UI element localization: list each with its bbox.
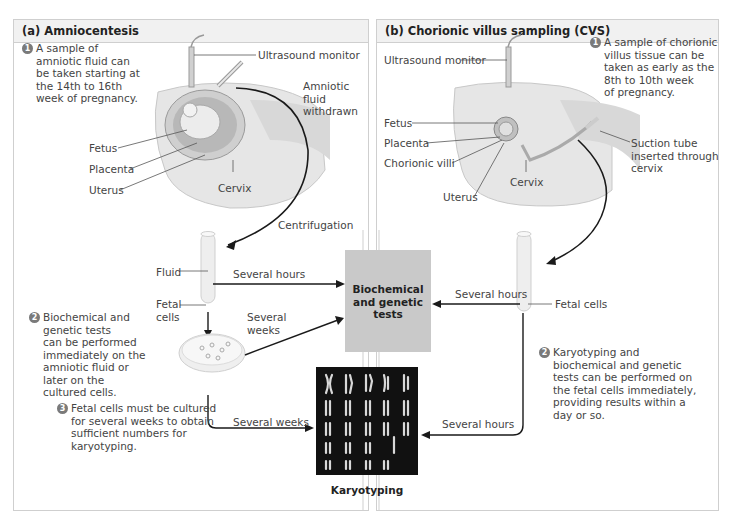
- step-number-badge: 1: [590, 37, 601, 48]
- label-ultrasound-monitor: Ultrasound monitor: [258, 49, 360, 62]
- step-text: A sample of chorionic villus tissue can …: [604, 36, 717, 99]
- label-placenta: Placenta: [89, 163, 134, 176]
- label-fluid: Fluid: [156, 266, 181, 279]
- label-fetus: Fetus: [384, 117, 412, 130]
- label-fetal-cells: Fetal cells: [156, 298, 181, 323]
- step-text: Biochemical and genetic tests can be per…: [43, 311, 146, 399]
- biochemical-genetic-tests-box: Biochemical and genetic tests: [345, 250, 431, 352]
- label-cervix: Cervix: [218, 182, 251, 195]
- label-cervix: Cervix: [510, 176, 543, 189]
- label-uterus: Uterus: [443, 191, 478, 204]
- step-number-badge: 3: [57, 403, 68, 414]
- step-text: Fetal cells must be cultured for several…: [71, 402, 216, 452]
- label-several-hours: Several hours: [455, 288, 527, 301]
- step-text: Karyotyping and biochemical and genetic …: [553, 346, 696, 421]
- step-number-badge: 1: [22, 43, 33, 54]
- biochemical-genetic-tests-label: Biochemical and genetic tests: [345, 283, 431, 321]
- label-uterus: Uterus: [89, 184, 124, 197]
- label-several-hours: Several hours: [233, 268, 305, 281]
- label-several-weeks: Several weeks: [247, 311, 286, 336]
- step-number-badge: 2: [539, 347, 550, 358]
- step-number-badge: 2: [29, 312, 40, 323]
- label-fetal-cells: Fetal cells: [555, 298, 607, 311]
- label-placenta: Placenta: [384, 137, 429, 150]
- karyotyping-label: Karyotyping: [316, 484, 418, 496]
- label-suction-tube: Suction tube inserted through cervix: [631, 137, 719, 175]
- step-text: A sample of amniotic fluid can be taken …: [36, 42, 140, 105]
- label-chorionic-villi: Chorionic villi: [384, 157, 455, 170]
- karyotype-image: [316, 367, 418, 475]
- label-fetus: Fetus: [89, 142, 117, 155]
- label-centrifugation: Centrifugation: [278, 219, 353, 232]
- label-ultrasound-monitor: Ultrasound monitor: [384, 54, 486, 67]
- label-several-hours: Several hours: [442, 418, 514, 431]
- label-several-weeks: Several weeks: [233, 416, 309, 429]
- chromosomes-icon: [316, 367, 418, 475]
- label-amniotic-fluid-withdrawn: Amniotic fluid withdrawn: [303, 80, 358, 118]
